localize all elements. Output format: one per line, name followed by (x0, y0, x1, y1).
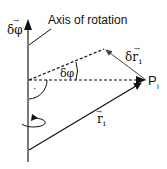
point-subscript: i (157, 82, 159, 91)
axis-vector-arrow: → (13, 17, 19, 25)
position-subscript: i (103, 119, 106, 128)
label-pointer-line (29, 29, 51, 45)
right-angle-dot: · (33, 83, 36, 94)
axis-vector-label: δφ (7, 23, 23, 37)
position-vector (29, 83, 141, 150)
radial-arrowhead-icon (136, 76, 146, 84)
angle-arc (76, 62, 78, 80)
angle-label: δφ (60, 67, 75, 80)
rotation-arrowhead-icon (31, 114, 38, 121)
position-arrow: → (96, 108, 102, 116)
point-label: P (148, 73, 157, 88)
axis-arrowhead-icon (24, 19, 32, 30)
rotation-diagram: δφ → Axis of rotation δr i → P i δφ · r … (0, 0, 167, 169)
displacement-subscript: i (139, 57, 142, 66)
axis-of-rotation-label: Axis of rotation (48, 13, 127, 27)
right-angle-arc (29, 80, 47, 99)
displacement-arrow: → (134, 45, 140, 53)
